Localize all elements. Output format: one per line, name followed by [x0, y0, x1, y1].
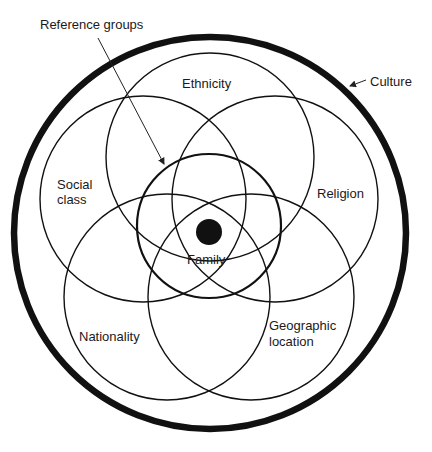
ethnicity-label: Ethnicity [182, 76, 232, 91]
geographic-location-circle [148, 194, 354, 400]
nationality-circle [64, 194, 270, 400]
family-dot [196, 219, 222, 245]
culture-label: Culture [370, 74, 412, 89]
reference-groups-label: Reference groups [40, 17, 144, 32]
family-label: Family [187, 252, 226, 267]
social-class-label-line2: class [57, 192, 87, 207]
social-class-label-line1: Social [57, 177, 93, 192]
geographic-location-label-line2: location [269, 334, 314, 349]
culture-pointer [350, 80, 366, 86]
culture-influence-diagram: Reference groups Culture Ethnicity Socia… [0, 0, 432, 452]
nationality-label: Nationality [79, 329, 140, 344]
geographic-location-label-line1: Geographic [269, 318, 337, 333]
religion-label: Religion [317, 186, 364, 201]
